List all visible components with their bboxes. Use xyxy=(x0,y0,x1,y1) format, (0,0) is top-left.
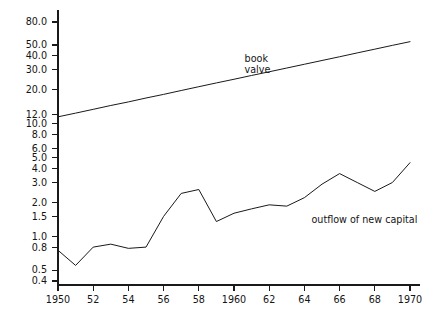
x-axis-tick-label: 1960 xyxy=(222,294,246,305)
chart-plot-area: 0.40.50.81.01.52.03.04.05.06.08.010.012.… xyxy=(0,0,427,310)
x-axis-tick-label: 56 xyxy=(157,294,169,305)
chart-figure: 0.40.50.81.01.52.03.04.05.06.08.010.012.… xyxy=(0,0,427,310)
y-axis-tick-label: 8.0 xyxy=(32,129,47,140)
series-annotations-group: bookvalveoutflow of new capital xyxy=(245,53,418,224)
y-axis-tick-label: 80.0 xyxy=(26,16,47,27)
y-axis-tick-label: 0.8 xyxy=(32,242,47,253)
y-axis-tick-label: 1.0 xyxy=(32,231,47,242)
x-axis-tick-label: 52 xyxy=(87,294,99,305)
x-axis-tick-label: 1970 xyxy=(398,294,422,305)
x-axis-tick-label: 64 xyxy=(298,294,310,305)
y-axis-tick-label: 2.0 xyxy=(32,197,47,208)
y-axis-tick-label: 1.5 xyxy=(32,211,47,222)
y-axis-tick-label: 0.5 xyxy=(32,264,47,275)
series-lines-group xyxy=(58,42,410,266)
series-label-0: book xyxy=(245,53,269,64)
series-line-0 xyxy=(58,42,410,117)
x-axis-tick-label: 68 xyxy=(369,294,381,305)
y-axis-ticks: 0.40.50.81.01.52.03.04.05.06.08.010.012.… xyxy=(26,16,58,286)
x-axis-ticks: 1950525456581960626466681970 xyxy=(46,285,422,305)
y-axis-tick-label: 6.0 xyxy=(32,143,47,154)
series-label-1: outflow of new capital xyxy=(311,214,417,225)
x-axis-tick-label: 66 xyxy=(333,294,345,305)
x-axis-tick-label: 1950 xyxy=(46,294,70,305)
y-axis-tick-label: 50.0 xyxy=(26,39,47,50)
y-axis-tick-label: 4.0 xyxy=(32,163,47,174)
y-axis-tick-label: 12.0 xyxy=(26,109,47,120)
x-axis-tick-label: 58 xyxy=(193,294,205,305)
x-axis-tick-label: 62 xyxy=(263,294,275,305)
y-axis-tick-label: 3.0 xyxy=(32,177,47,188)
y-axis-tick-label: 30.0 xyxy=(26,64,47,75)
y-axis-tick-label: 40.0 xyxy=(26,50,47,61)
x-axis-tick-label: 54 xyxy=(122,294,134,305)
series-label-0-line2: valve xyxy=(245,64,271,75)
y-axis-tick-label: 20.0 xyxy=(26,84,47,95)
y-axis-tick-label: 0.4 xyxy=(32,275,47,286)
